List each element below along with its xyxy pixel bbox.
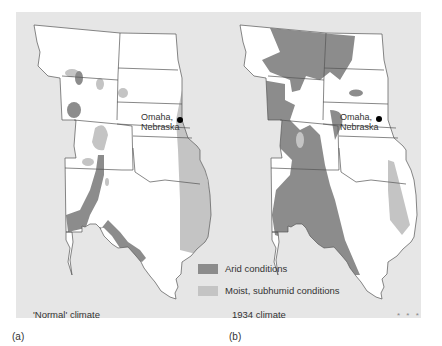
panel-label-a: (a): [12, 331, 24, 342]
legend-moist-label: Moist, subhumid conditions: [225, 285, 340, 296]
ornament-stars: * * *: [397, 311, 421, 320]
map-1934-climate: Omaha, Nebraska: [240, 25, 417, 299]
map-normal-climate: Omaha, Nebraska: [34, 25, 212, 299]
legend-arid: Arid conditions: [198, 263, 287, 274]
city-label-line1: Omaha,: [141, 112, 173, 122]
city-label-line1-b: Omaha,: [340, 112, 372, 122]
legend-moist: Moist, subhumid conditions: [198, 285, 340, 296]
panel-label-b: (b): [229, 331, 241, 342]
moist-swatch: [198, 286, 218, 296]
city-label-line2: Nebraska: [141, 122, 180, 132]
arid-swatch: [198, 264, 218, 274]
caption-1934: 1934 climate: [232, 309, 286, 320]
caption-normal: 'Normal' climate: [33, 309, 100, 320]
legend-arid-label: Arid conditions: [225, 263, 287, 274]
city-label-line2-b: Nebraska: [340, 122, 379, 132]
